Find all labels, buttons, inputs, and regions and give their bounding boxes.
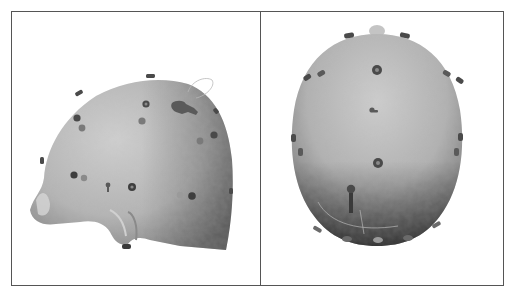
head-scan-top-render bbox=[261, 12, 503, 285]
panel-right-top-view bbox=[261, 12, 503, 285]
panel-left-side-view bbox=[12, 12, 260, 285]
head-scan-side-render bbox=[12, 12, 260, 285]
head-shape-side bbox=[30, 80, 233, 250]
head-shape-top bbox=[292, 25, 462, 246]
